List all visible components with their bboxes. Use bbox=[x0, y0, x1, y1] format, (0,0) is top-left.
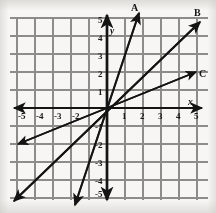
line-b-label: B bbox=[194, 8, 201, 18]
y-tick-label-4: 4 bbox=[98, 34, 103, 43]
y-tick-label-neg4: -4 bbox=[95, 177, 103, 186]
y-tick-label-1: 1 bbox=[98, 88, 103, 97]
coordinate-plane bbox=[0, 0, 216, 213]
x-tick-label-neg4: -4 bbox=[36, 112, 44, 121]
x-tick-label-3: 3 bbox=[158, 112, 163, 121]
x-tick-label-neg2: -2 bbox=[72, 112, 80, 121]
y-axis-name: y bbox=[110, 27, 114, 37]
y-tick-label-3: 3 bbox=[98, 52, 103, 61]
y-tick-label-2: 2 bbox=[98, 70, 103, 79]
x-tick-label-2: 2 bbox=[140, 112, 145, 121]
line-a-label: A bbox=[131, 3, 138, 13]
y-tick-label-neg3: -3 bbox=[95, 159, 103, 168]
y-tick-label-neg2: -2 bbox=[95, 141, 103, 150]
y-tick-label-neg5: -5 bbox=[95, 190, 103, 199]
graph-image: -5 -4 -3 -2 1 2 3 4 5 5 4 3 2 1 -1 -2 -3… bbox=[0, 0, 216, 213]
line-c-label: C bbox=[199, 69, 206, 79]
x-tick-label-4: 4 bbox=[176, 112, 181, 121]
y-tick-label-neg1: -1 bbox=[95, 123, 103, 132]
x-axis-name: x bbox=[188, 98, 193, 108]
x-tick-label-neg3: -3 bbox=[54, 112, 62, 121]
y-tick-label-5: 5 bbox=[98, 16, 103, 25]
x-tick-label-neg5: -5 bbox=[18, 112, 26, 121]
x-tick-label-1: 1 bbox=[122, 112, 127, 121]
x-tick-label-5: 5 bbox=[194, 112, 199, 121]
